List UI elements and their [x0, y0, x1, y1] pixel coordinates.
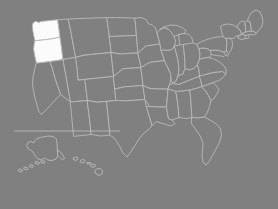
state-montana[interactable]: [69, 18, 112, 58]
hawaii-oahu[interactable]: [81, 160, 86, 164]
state-wyoming[interactable]: [76, 53, 114, 81]
state-oregon[interactable]: [34, 37, 63, 63]
state-oklahoma[interactable]: [115, 86, 145, 101]
aleutian-island-5[interactable]: [41, 161, 45, 164]
state-colorado[interactable]: [85, 77, 116, 103]
us-choropleth-map: United States Choropleth Map: [0, 0, 278, 209]
hawaii-big-island[interactable]: [95, 169, 103, 176]
hawaii-molokai[interactable]: [88, 163, 91, 165]
aleutian-island-1[interactable]: [36, 162, 40, 165]
aleutian-island-4[interactable]: [19, 169, 23, 172]
state-alabama[interactable]: [176, 90, 192, 119]
map-canvas: [0, 0, 278, 209]
state-south-dakota[interactable]: [109, 36, 138, 55]
hawaii-kauai[interactable]: [74, 157, 79, 161]
aleutian-island-3[interactable]: [24, 167, 28, 170]
state-washington[interactable]: [32, 20, 60, 41]
aleutian-island-2[interactable]: [30, 165, 34, 168]
state-north-dakota[interactable]: [107, 18, 136, 37]
